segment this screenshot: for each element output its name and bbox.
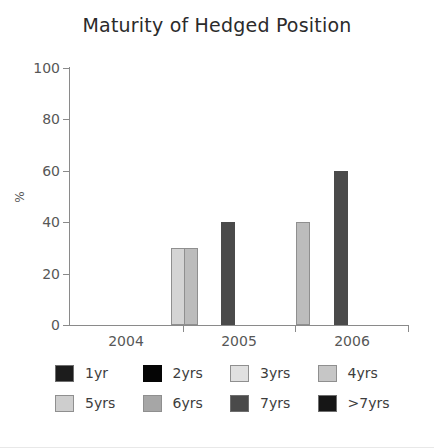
x-tick-mark	[295, 326, 296, 332]
y-tick-mark	[63, 222, 69, 223]
legend-entry-5yrs[interactable]: 5yrs	[55, 395, 143, 412]
legend-label: 7yrs	[260, 395, 290, 411]
y-tick-mark	[63, 68, 69, 69]
legend-swatch-icon	[318, 365, 337, 382]
y-tick-label: 60	[6, 163, 60, 179]
y-tick-mark	[63, 171, 69, 172]
legend-row: 1yr2yrs3yrs4yrs	[55, 358, 405, 388]
legend-entry-3yrs[interactable]: 3yrs	[230, 365, 318, 382]
legend-swatch-icon	[318, 395, 337, 412]
legend-entry-6yrs[interactable]: 6yrs	[143, 395, 231, 412]
legend-swatch-icon	[230, 395, 249, 412]
x-tick-label: 2006	[334, 333, 370, 349]
legend-label: 6yrs	[173, 395, 203, 411]
y-tick-label: 0	[6, 317, 60, 333]
legend-swatch-icon	[143, 365, 162, 382]
legend-label: 2yrs	[173, 365, 203, 381]
x-tick-mark	[408, 326, 409, 332]
legend-entry-4yrs[interactable]: 4yrs	[318, 365, 406, 382]
legend-row: 5yrs6yrs7yrs>7yrs	[55, 388, 405, 418]
legend-entry-1yr[interactable]: 1yr	[55, 365, 143, 382]
y-tick-label: 80	[6, 111, 60, 127]
y-tick-mark	[63, 325, 69, 326]
bar-2005-4yrs	[296, 222, 310, 325]
x-axis-spine	[69, 325, 409, 326]
legend-entry-2yrs[interactable]: 2yrs	[143, 365, 231, 382]
legend-swatch-icon	[143, 395, 162, 412]
bar-2004-4yrs	[184, 248, 198, 325]
legend-label: 5yrs	[85, 395, 115, 411]
y-tick-label: 20	[6, 266, 60, 282]
bar-2004-7yrs	[221, 222, 235, 325]
chart-figure: Maturity of Hedged Position % 0204060801…	[0, 0, 434, 448]
chart-title: Maturity of Hedged Position	[0, 14, 434, 36]
y-tick-mark	[63, 119, 69, 120]
legend-label: 3yrs	[260, 365, 290, 381]
bar-2004-3yrs	[171, 248, 185, 325]
legend-swatch-icon	[55, 395, 74, 412]
y-tick-label: 40	[6, 214, 60, 230]
x-tick-mark	[183, 326, 184, 332]
legend-label: 4yrs	[348, 365, 378, 381]
y-tick-mark	[63, 274, 69, 275]
legend-swatch-icon	[230, 365, 249, 382]
y-axis: % 020406080100	[0, 0, 60, 448]
legend-label: 1yr	[85, 365, 108, 381]
legend-entry->7yrs[interactable]: >7yrs	[318, 395, 406, 412]
legend-label: >7yrs	[348, 395, 390, 411]
x-tick-label: 2004	[108, 333, 144, 349]
legend-swatch-icon	[55, 365, 74, 382]
plot-area	[70, 68, 408, 325]
y-axis-title: %	[13, 191, 27, 202]
chart-legend: 1yr2yrs3yrs4yrs5yrs6yrs7yrs>7yrs	[55, 358, 405, 418]
y-tick-label: 100	[6, 60, 60, 76]
x-tick-label: 2005	[221, 333, 257, 349]
bar-2005-7yrs	[334, 171, 348, 325]
legend-entry-7yrs[interactable]: 7yrs	[230, 395, 318, 412]
